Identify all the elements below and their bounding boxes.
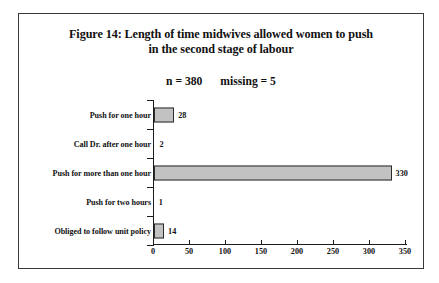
- category-label: Call Dr. after one hour: [74, 139, 151, 148]
- x-axis-tick-label: 150: [255, 247, 267, 256]
- x-axis-tick-label: 50: [185, 247, 193, 256]
- bar-row: Push for more than one hour330: [19, 158, 425, 187]
- category-label: Obliged to follow unit policy: [54, 226, 151, 235]
- bar-value-label: 28: [178, 110, 186, 119]
- x-axis-tick-label: 250: [327, 247, 339, 256]
- y-axis-tick: [147, 100, 154, 101]
- bar-chart-plot-area: Push for one hour28Call Dr. after one ho…: [19, 14, 425, 270]
- x-axis-tick: [225, 240, 226, 245]
- x-axis-tick: [369, 240, 370, 245]
- x-axis-tick-label: 350: [399, 247, 411, 256]
- bar: [154, 194, 155, 209]
- x-axis-tick: [297, 240, 298, 245]
- bar-value-label: 330: [396, 168, 408, 177]
- bar-row: Call Dr. after one hour2: [19, 129, 425, 158]
- bar-value-label: 1: [159, 197, 163, 206]
- x-axis-tick-label: 300: [363, 247, 375, 256]
- x-axis-tick-label: 0: [151, 247, 155, 256]
- bar: [154, 223, 164, 238]
- bar: [154, 165, 392, 180]
- x-axis-tick-label: 100: [219, 247, 231, 256]
- x-axis-tick: [261, 240, 262, 245]
- y-axis-tick: [147, 245, 154, 246]
- bar-row: Push for one hour28: [19, 100, 425, 129]
- x-axis-tick: [189, 240, 190, 245]
- bar-row: Push for two hours1: [19, 187, 425, 216]
- x-axis-tick: [153, 240, 154, 245]
- category-label: Push for more than one hour: [53, 168, 151, 177]
- bar: [154, 107, 174, 122]
- bar-value-label: 14: [168, 226, 176, 235]
- bar-value-label: 2: [159, 139, 163, 148]
- bar-row: Obliged to follow unit policy14: [19, 216, 425, 245]
- x-axis-tick-label: 200: [291, 247, 303, 256]
- category-label: Push for two hours: [86, 197, 151, 206]
- figure-frame: Figure 14: Length of time midwives allow…: [18, 13, 424, 269]
- bar: [154, 136, 155, 151]
- category-label: Push for one hour: [90, 110, 151, 119]
- x-axis-tick: [333, 240, 334, 245]
- x-axis-tick: [405, 240, 406, 245]
